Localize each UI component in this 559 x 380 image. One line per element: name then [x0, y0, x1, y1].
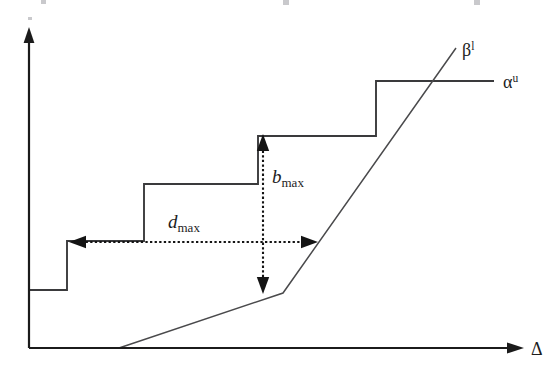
service-curve-beta-lower — [119, 48, 456, 348]
figure-root: βl αu dmax bmax Δ — [0, 0, 559, 380]
arrival-curve-alpha-upper — [29, 81, 494, 348]
d-max-label: dmax — [168, 211, 200, 235]
diagram-canvas: βl αu dmax bmax Δ — [0, 0, 559, 380]
dimension-d-max — [69, 236, 318, 248]
y-axis — [24, 27, 35, 348]
scan-artifacts — [28, 0, 480, 20]
service-curve-label-superscript: l — [471, 40, 474, 52]
d-max-label-subscript: max — [178, 220, 201, 235]
arrival-curve-label: αu — [503, 72, 518, 92]
d-max-label-base: d — [168, 211, 178, 232]
x-axis-label: Δ — [531, 339, 543, 359]
service-curve-label-base: β — [462, 40, 471, 60]
b-max-label: bmax — [272, 166, 304, 190]
arrival-curve-label-superscript: u — [512, 72, 518, 84]
x-axis — [29, 342, 524, 353]
service-curve-label: βl — [462, 40, 474, 60]
b-max-label-base: b — [272, 166, 282, 187]
b-max-label-subscript: max — [282, 175, 305, 190]
